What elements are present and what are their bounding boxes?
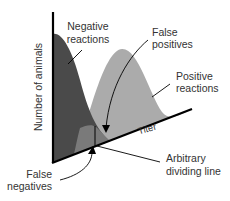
dividing-line-label-line1: Arbitrary xyxy=(166,152,206,164)
negative-reactions-label-line1: Negative xyxy=(67,20,109,32)
y-axis-label: Number of animals xyxy=(32,43,44,131)
false-negatives-label-line1: False xyxy=(26,168,52,180)
negative-reactions-label-line2: reactions xyxy=(67,33,110,45)
false-negatives-label-line2: negatives xyxy=(7,180,52,192)
positive-reactions-label-line1: Positive xyxy=(176,70,213,82)
diagram-canvas: Number of animals Titer Negative reactio… xyxy=(0,0,230,201)
false-positives-label-line2: positives xyxy=(152,38,193,50)
false-positives-label-line1: False xyxy=(152,26,178,38)
dividing-line-label-line2: dividing line xyxy=(166,165,221,177)
positive-reactions-pointer xyxy=(152,84,170,97)
positive-reactions-label-line2: reactions xyxy=(176,82,219,94)
dividing-line-pointer xyxy=(97,146,160,162)
